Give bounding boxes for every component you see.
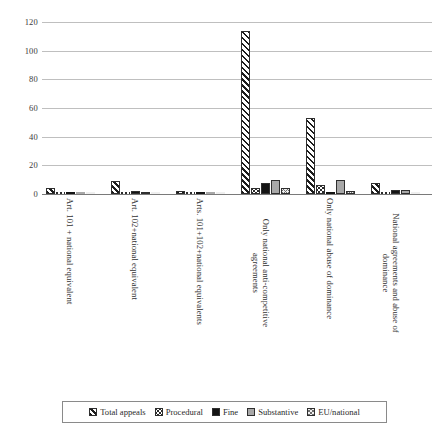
bar-eu-national [281,188,290,194]
bar-procedural [316,185,325,194]
legend-label: Total appeals [100,407,145,417]
legend-swatch-icon [212,408,220,416]
axis-baseline [42,194,432,195]
legend-item: Substantive [247,407,298,417]
bar-group [107,22,172,194]
y-axis-tick-label: 80 [29,74,38,84]
x-label-cell: Only national abuse of dominance [302,196,367,392]
legend-item: Total appeals [89,407,145,417]
bar-procedural [56,192,65,194]
legend-item: Procedural [155,407,203,417]
x-axis-tick-label: Arts. 101+102+national equivalents [195,198,205,325]
bar-eu-national [86,192,95,194]
legend-swatch-icon [89,408,97,416]
x-label-cell: Only national anti-competitive agreement… [237,196,302,392]
legend-label: Procedural [166,407,203,417]
x-axis-tick-label: Only national abuse of dominance [325,198,335,319]
chart-legend: Total appealsProceduralFineSubstantiveEU… [62,401,387,423]
bar-fine [131,191,140,194]
bar-total-appeals [46,188,55,194]
bar-group [172,22,237,194]
bar-substantive [141,192,150,194]
bar-substantive [336,180,345,194]
bar-procedural [186,192,195,194]
bar-stack [107,22,172,194]
y-axis-tick-label: 40 [29,132,38,142]
bar-fine [196,192,205,194]
bar-stack [172,22,237,194]
bar-stack [367,22,432,194]
legend-item: Fine [212,407,238,417]
bar-eu-national [411,192,420,194]
bar-total-appeals [241,31,250,194]
bar-total-appeals [176,191,185,194]
y-axis-tick-label: 20 [29,160,38,170]
bar-eu-national [216,192,225,194]
bar-stack [42,22,107,194]
bar-fine [326,192,335,194]
bar-procedural [251,188,260,194]
bar-procedural [381,192,390,194]
bar-total-appeals [371,183,380,194]
y-axis-tick-label: 60 [29,103,38,113]
bar-group [237,22,302,194]
x-label-cell: Art. 102+national equivalent [107,196,172,392]
y-axis-tick-labels: 020406080100120 [0,22,38,194]
legend-swatch-icon [307,408,315,416]
bar-stack [302,22,367,194]
bar-chart: 020406080100120 Art. 101 + national equi… [0,0,445,441]
bar-group [302,22,367,194]
bar-substantive [206,192,215,194]
legend-label: Substantive [258,407,298,417]
bar-fine [66,192,75,194]
bar-substantive [271,180,280,194]
legend-swatch-icon [247,408,255,416]
bar-eu-national [151,192,160,194]
bar-substantive [401,190,410,194]
x-axis-tick-label: Art. 102+national equivalent [130,198,140,300]
bar-stack [237,22,302,194]
x-label-cell: Arts. 101+102+national equivalents [172,196,237,392]
legend-item: EU/national [307,407,360,417]
bar-groups [42,22,432,194]
x-axis-category-labels: Art. 101 + national equivalentArt. 102+n… [42,196,432,392]
y-axis-tick-label: 100 [25,46,38,56]
bar-total-appeals [306,118,315,194]
plot-area [42,22,432,194]
x-axis-tick-label: National agreements and abuse of dominan… [380,198,400,348]
bar-substantive [76,192,85,194]
bar-eu-national [346,191,355,194]
bar-total-appeals [111,181,120,194]
y-axis-tick-label: 0 [34,189,38,199]
y-axis-tick-label: 120 [25,17,38,27]
bar-procedural [121,192,130,194]
bar-fine [261,183,270,194]
x-label-cell: National agreements and abuse of dominan… [367,196,432,392]
bar-fine [391,190,400,194]
bar-group [42,22,107,194]
legend-swatch-icon [155,408,163,416]
x-axis-tick-label: Only national anti-competitive agreement… [250,198,270,348]
legend-label: Fine [223,407,238,417]
x-label-cell: Art. 101 + national equivalent [42,196,107,392]
legend-label: EU/national [318,407,360,417]
bar-group [367,22,432,194]
x-axis-tick-label: Art. 101 + national equivalent [65,198,75,304]
